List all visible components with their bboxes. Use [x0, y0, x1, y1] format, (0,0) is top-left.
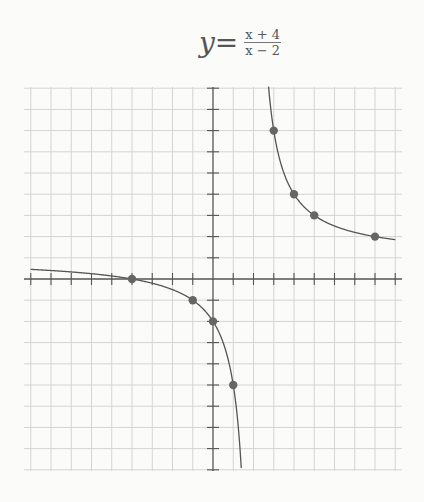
data-point	[128, 275, 136, 283]
function-plot	[0, 0, 424, 502]
data-point	[371, 232, 379, 240]
data-point	[270, 126, 278, 134]
data-point	[209, 317, 217, 325]
data-point	[189, 296, 197, 304]
axes	[24, 87, 402, 471]
data-point	[290, 190, 298, 198]
data-point	[310, 211, 318, 219]
curve-branch-left	[31, 269, 242, 468]
data-point	[229, 381, 237, 389]
